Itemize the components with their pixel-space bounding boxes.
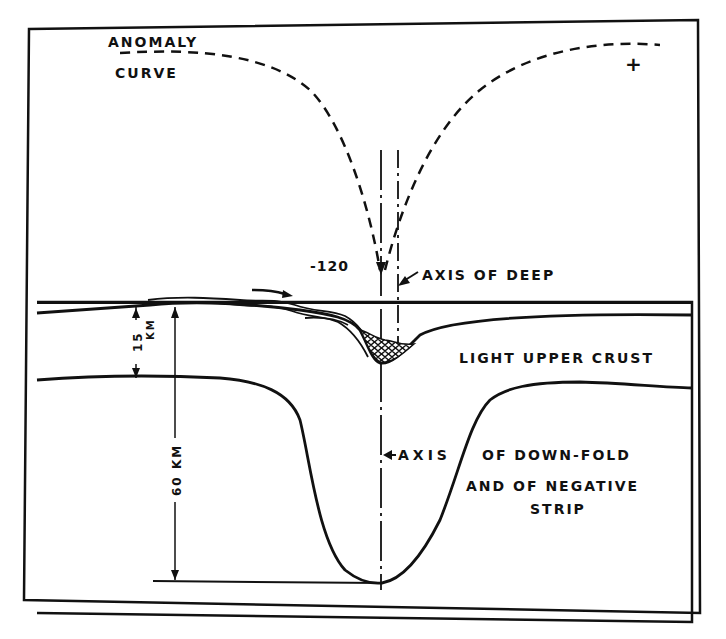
depth-60km-baseline (153, 581, 382, 583)
anomaly-minimum-value: -120 (310, 258, 349, 274)
anomaly-label-line1: ANOMALY (108, 34, 198, 50)
depth-60-label: 60 KM (170, 444, 184, 496)
depth-15km-arrow-up-icon (132, 308, 140, 318)
anomaly-label-line2: CURVE (115, 65, 178, 81)
outer-frame (24, 20, 700, 613)
axis-downfold-label-line4: STRIP (530, 501, 586, 517)
axis-downfold-label-line3: AND OF NEGATIVE (466, 478, 639, 494)
axis-downfold-label-line2: OF DOWN-FOLD (482, 447, 631, 463)
axis-of-deep-label: AXIS OF DEEP (422, 267, 555, 283)
light-upper-crust-label: LIGHT UPPER CRUST (459, 350, 654, 366)
thrust-arrowhead-icon (282, 290, 293, 298)
thrust-direction-arrow-icon (252, 290, 285, 294)
anomaly-curve-left (120, 52, 380, 270)
depth-15-label: 15 (131, 331, 145, 352)
geological-cross-section-diagram: 15 KM 60 KM ANOMALY CURVE + -120 AXIS OF… (0, 0, 726, 639)
anomaly-curve-right (385, 44, 660, 270)
axis-downfold-label-line1: AXIS (398, 447, 451, 463)
trough-sediment-fill (360, 330, 414, 362)
depth-60km-arrow-up-icon (171, 307, 179, 318)
positive-anomaly-sign: + (625, 52, 644, 76)
depth-60km-arrow-down-icon (171, 570, 179, 580)
depth-15-unit-label: KM (145, 318, 156, 340)
thrust-sheet-lower (150, 302, 368, 357)
